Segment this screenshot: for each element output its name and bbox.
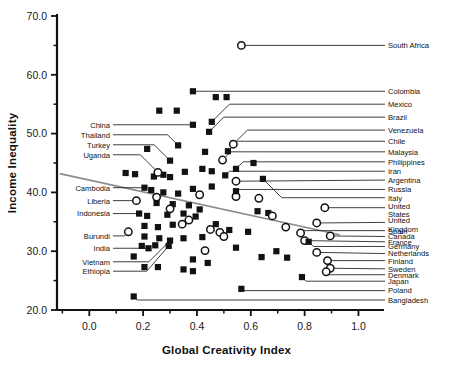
- plot-canvas: 20.030.040.050.060.070.00.00.20.40.60.81…: [0, 0, 458, 365]
- country-label: Bangladesh: [388, 296, 428, 305]
- data-point-square: [180, 266, 186, 272]
- data-point-square: [148, 187, 154, 193]
- country-label: Philippines: [388, 158, 425, 167]
- country-label: Brazil: [388, 113, 407, 122]
- data-point-square-labeled: [238, 286, 244, 292]
- country-label: Iran: [388, 167, 401, 176]
- data-point-circle-labeled: [232, 178, 239, 185]
- data-point-circle: [196, 191, 203, 198]
- x-tick-label: 0.4: [190, 320, 205, 332]
- y-tick-label: 60.0: [27, 69, 48, 81]
- data-point-square: [170, 222, 176, 228]
- data-point-square-labeled: [260, 176, 266, 182]
- data-point-square-labeled: [141, 185, 147, 191]
- data-point-square: [144, 146, 150, 152]
- data-point-circle: [153, 193, 160, 200]
- country-label: Burundi: [84, 232, 110, 241]
- data-point-circle-labeled: [154, 169, 161, 176]
- data-point-circle: [220, 233, 227, 240]
- data-point-circle-labeled: [230, 140, 237, 147]
- country-label: Mexico: [388, 100, 412, 109]
- leader-line: [309, 242, 385, 247]
- data-point-circle-labeled: [133, 197, 140, 204]
- data-point-square: [139, 243, 145, 249]
- data-point-square: [160, 189, 166, 195]
- data-point-square: [155, 264, 161, 270]
- data-point-square: [199, 234, 205, 240]
- data-point-square-labeled: [136, 210, 142, 216]
- data-point-square: [131, 253, 137, 259]
- x-tick-label: 0.8: [297, 320, 312, 332]
- y-axis-title: Income Inequality: [6, 112, 18, 213]
- y-tick-label: 50.0: [27, 127, 48, 139]
- data-point-square: [190, 268, 196, 274]
- country-label: Indonesia: [77, 209, 111, 218]
- country-label: China: [90, 121, 111, 130]
- data-point-square-labeled: [190, 88, 196, 94]
- country-label: Cambodia: [75, 184, 110, 193]
- data-point-square: [132, 171, 138, 177]
- data-point-square: [152, 242, 158, 248]
- data-point-square: [180, 210, 186, 216]
- data-point-circle-labeled: [238, 42, 245, 49]
- country-label: Thailand: [81, 131, 110, 140]
- x-tick-label: 0.6: [243, 320, 258, 332]
- data-point-square: [141, 233, 147, 239]
- country-label: Vietnam: [82, 258, 110, 267]
- leader-line: [236, 180, 385, 181]
- data-point-square: [167, 174, 173, 180]
- leader-line: [225, 171, 385, 175]
- data-point-square-labeled: [190, 122, 196, 128]
- data-point-square: [175, 190, 181, 196]
- country-label: Colombia: [388, 87, 421, 96]
- leader-line: [317, 222, 385, 223]
- data-point-square: [258, 254, 264, 260]
- data-point-circle: [178, 220, 185, 227]
- data-point-square: [284, 255, 290, 261]
- data-point-square: [209, 183, 215, 189]
- leader-line: [233, 130, 385, 144]
- data-point-square-labeled: [209, 119, 215, 125]
- leader-line: [305, 241, 385, 242]
- leader-line: [134, 296, 385, 300]
- country-label: Poland: [388, 286, 412, 295]
- leader-line: [241, 289, 385, 291]
- data-point-circle-labeled: [322, 268, 329, 275]
- country-label: Liberia: [87, 197, 111, 206]
- data-point-square: [197, 206, 203, 212]
- leader-line: [236, 189, 385, 191]
- leader-line: [317, 252, 385, 253]
- data-point-square-labeled: [167, 158, 173, 164]
- data-point-square: [233, 245, 239, 251]
- data-point-square: [174, 108, 180, 114]
- data-point-square-labeled: [225, 148, 231, 154]
- data-point-square: [273, 248, 279, 254]
- leader-line: [302, 277, 385, 281]
- leader-line: [113, 155, 158, 173]
- data-point-square: [123, 170, 129, 176]
- leader-line: [330, 268, 385, 269]
- data-point-square: [226, 227, 232, 233]
- leader-line: [326, 272, 385, 275]
- leader-line: [330, 236, 385, 237]
- y-tick-label: 70.0: [27, 10, 48, 22]
- data-point-circle-labeled: [313, 219, 320, 226]
- x-axis-title: Global Creativity Index: [162, 344, 292, 356]
- data-point-circle: [282, 223, 289, 230]
- data-point-circle-labeled: [297, 229, 304, 236]
- leader-line: [113, 145, 170, 161]
- leader-line: [212, 104, 385, 122]
- data-point-square: [144, 213, 150, 219]
- data-point-square-labeled: [175, 142, 181, 148]
- data-point-square-labeled: [166, 243, 172, 249]
- data-point-square: [180, 235, 186, 241]
- country-label: India: [94, 244, 111, 253]
- leader-line: [263, 179, 385, 198]
- data-point-square: [202, 149, 208, 155]
- data-point-square: [182, 169, 188, 175]
- leader-line: [228, 141, 385, 151]
- x-tick-label: 0.0: [82, 320, 97, 332]
- data-point-square-labeled: [233, 166, 239, 172]
- data-point-square: [193, 213, 199, 219]
- x-tick-label: 0.2: [136, 320, 151, 332]
